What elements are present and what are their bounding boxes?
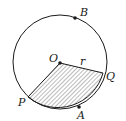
circle-sector-diagram: O r B Q P A (0, 0, 126, 121)
shaded-sector (28, 63, 103, 108)
point-o-dot (58, 61, 62, 65)
point-b-dot (73, 16, 77, 20)
label-o: O (49, 52, 58, 65)
label-r: r (80, 55, 86, 68)
label-b: B (79, 6, 88, 19)
label-p: P (17, 96, 26, 109)
label-a: A (76, 109, 85, 121)
label-q: Q (106, 70, 115, 83)
